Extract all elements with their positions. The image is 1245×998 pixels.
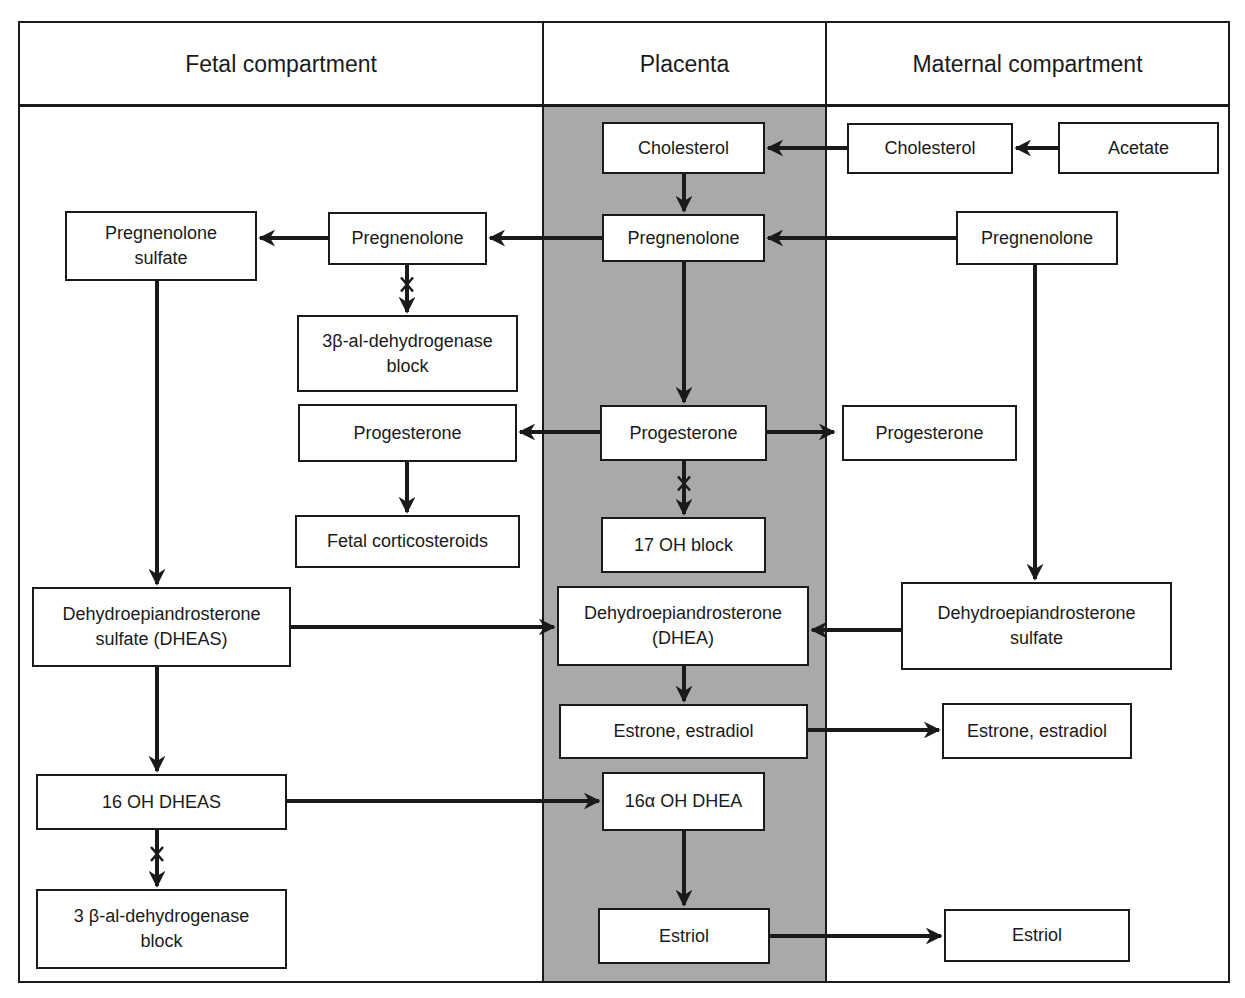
- node-mat-acetate: Acetate: [1058, 122, 1219, 174]
- steroid-pathway-diagram: Fetal compartment Placenta Maternal comp…: [0, 0, 1245, 998]
- node-fet-16oh-dheas: 16 OH DHEAS: [36, 774, 287, 830]
- node-fet-dheas: Dehydroepiandrosterone sulfate (DHEAS): [32, 587, 291, 667]
- node-fet-progesterone: Progesterone: [298, 404, 517, 462]
- node-fet-pregnenolone: Pregnenolone: [328, 212, 487, 265]
- node-fet-corticosteroids: Fetal corticosteroids: [295, 515, 520, 568]
- node-plac-estrone: Estrone, estradiol: [559, 704, 808, 759]
- node-fet-3b-block-2: 3 β-al-dehydrogenase block: [36, 889, 287, 969]
- node-mat-cholesterol: Cholesterol: [847, 123, 1013, 174]
- node-plac-17oh-block: 17 OH block: [601, 517, 766, 573]
- node-plac-dhea: Dehydroepiandrosterone (DHEA): [557, 586, 809, 666]
- node-mat-estriol: Estriol: [944, 909, 1130, 962]
- header-maternal-compartment: Maternal compartment: [827, 23, 1228, 106]
- node-plac-progesterone: Progesterone: [600, 405, 767, 461]
- column-divider-placenta-maternal: [825, 21, 827, 983]
- column-divider-fetal-placenta: [542, 21, 544, 983]
- header-fetal-compartment: Fetal compartment: [20, 23, 542, 106]
- node-plac-16a-oh-dhea: 16α OH DHEA: [602, 772, 765, 831]
- node-mat-pregnenolone: Pregnenolone: [956, 211, 1118, 265]
- node-mat-estrone: Estrone, estradiol: [942, 703, 1132, 759]
- header-placenta: Placenta: [544, 23, 825, 106]
- node-fet-3b-block-1: 3β-al-dehydrogenase block: [297, 315, 518, 392]
- node-fet-preg-sulfate: Pregnenolone sulfate: [65, 211, 257, 281]
- node-mat-dhea-sulfate: Dehydroepiandrosterone sulfate: [901, 582, 1172, 670]
- node-plac-estriol: Estriol: [598, 908, 770, 964]
- node-plac-pregnenolone: Pregnenolone: [602, 214, 765, 262]
- node-plac-cholesterol: Cholesterol: [602, 122, 765, 174]
- node-mat-progesterone: Progesterone: [842, 405, 1017, 461]
